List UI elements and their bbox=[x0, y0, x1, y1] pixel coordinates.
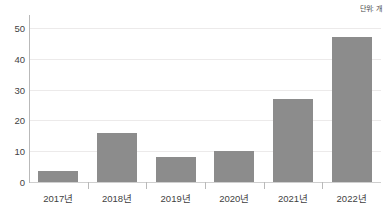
bar-2017년 bbox=[38, 171, 78, 182]
y-tick-label-50: 50 bbox=[1, 23, 25, 34]
bar-2018년 bbox=[97, 133, 137, 182]
y-tick-label-10: 10 bbox=[1, 146, 25, 157]
y-tick-label-0: 0 bbox=[1, 177, 25, 188]
category-tick-5 bbox=[322, 182, 323, 189]
bar-chart: 단위: 개 01020304050 2017년2018년2019년2020년20… bbox=[0, 0, 388, 219]
x-tick-label-2022년: 2022년 bbox=[337, 191, 367, 205]
bar-2019년 bbox=[156, 157, 196, 182]
y-tick-label-20: 20 bbox=[1, 115, 25, 126]
category-tick-2 bbox=[146, 182, 147, 189]
y-axis-line bbox=[29, 15, 30, 183]
x-tick-label-2021년: 2021년 bbox=[278, 191, 308, 205]
category-tick-marks bbox=[29, 182, 381, 189]
category-tick-1 bbox=[88, 182, 89, 189]
unit-annotation: 단위: 개 bbox=[360, 3, 382, 13]
y-axis-labels: 01020304050 bbox=[0, 19, 25, 182]
bar-2021년 bbox=[273, 99, 313, 182]
bars-layer bbox=[29, 19, 381, 182]
x-tick-label-2020년: 2020년 bbox=[219, 191, 249, 205]
x-tick-label-2019년: 2019년 bbox=[161, 191, 191, 205]
y-tick-label-30: 30 bbox=[1, 84, 25, 95]
category-tick-4 bbox=[264, 182, 265, 189]
bar-2020년 bbox=[214, 151, 254, 182]
x-tick-label-2017년: 2017년 bbox=[43, 191, 73, 205]
plot-area bbox=[29, 19, 381, 182]
x-axis-labels: 2017년2018년2019년2020년2021년2022년 bbox=[29, 191, 381, 211]
y-tick-label-40: 40 bbox=[1, 53, 25, 64]
bar-2022년 bbox=[332, 37, 372, 182]
category-tick-3 bbox=[205, 182, 206, 189]
x-tick-label-2018년: 2018년 bbox=[102, 191, 132, 205]
